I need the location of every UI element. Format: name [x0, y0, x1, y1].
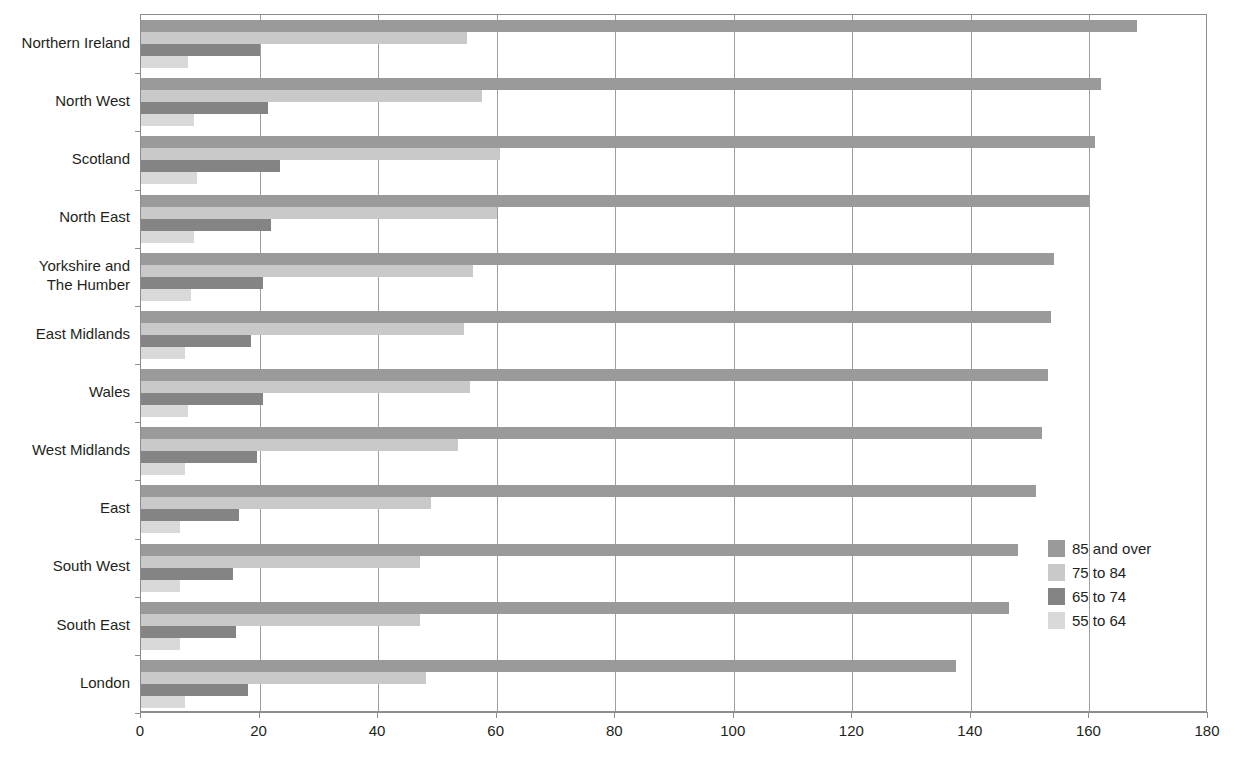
bar: [141, 56, 188, 68]
bar-row: [141, 369, 1206, 381]
bar: [141, 393, 263, 405]
chart-legend: 85 and over75 to 8465 to 7455 to 64: [1048, 538, 1151, 631]
bar-row: [141, 148, 1206, 160]
bar-row: [141, 672, 1206, 684]
bar-row: [141, 626, 1206, 638]
bar: [141, 195, 1089, 207]
bar: [141, 556, 420, 568]
bar-row: [141, 660, 1206, 672]
bar: [141, 381, 470, 393]
bar-row: [141, 311, 1206, 323]
category-label: North West: [0, 92, 130, 110]
bar-row: [141, 696, 1206, 708]
bar-row: [141, 556, 1206, 568]
x-axis-tick: [259, 712, 260, 718]
x-axis-tick-label: 180: [1194, 722, 1219, 739]
category-group: [141, 364, 1206, 422]
legend-swatch-icon: [1048, 540, 1065, 557]
bar: [141, 289, 191, 301]
category-group: [141, 422, 1206, 480]
bar-row: [141, 114, 1206, 126]
bar-row: [141, 381, 1206, 393]
bar: [141, 544, 1018, 556]
category-label: East Midlands: [0, 325, 130, 343]
bar-row: [141, 544, 1206, 556]
bar-row: [141, 497, 1206, 509]
bar: [141, 311, 1051, 323]
bar-row: [141, 521, 1206, 533]
category-group: [141, 306, 1206, 364]
category-group: [141, 655, 1206, 713]
bar: [141, 684, 248, 696]
bar-row: [141, 509, 1206, 521]
bar-row: [141, 277, 1206, 289]
bar-row: [141, 614, 1206, 626]
x-axis-tick: [1207, 712, 1208, 718]
bar: [141, 253, 1054, 265]
legend-label: 85 and over: [1072, 540, 1151, 557]
bar: [141, 497, 431, 509]
bar: [141, 265, 473, 277]
category-label: Yorkshire and The Humber: [0, 257, 130, 294]
legend-item: 65 to 74: [1048, 586, 1151, 607]
x-axis-tick: [614, 712, 615, 718]
bar: [141, 347, 185, 359]
bar-row: [141, 568, 1206, 580]
bar-chart: Northern IrelandNorth WestScotlandNorth …: [0, 0, 1239, 760]
x-axis-tick-label: 100: [720, 722, 745, 739]
bar: [141, 148, 500, 160]
bar-row: [141, 580, 1206, 592]
legend-swatch-icon: [1048, 564, 1065, 581]
bar-row: [141, 195, 1206, 207]
bar-row: [141, 231, 1206, 243]
bar: [141, 463, 185, 475]
bar-row: [141, 265, 1206, 277]
legend-item: 85 and over: [1048, 538, 1151, 559]
x-axis-tick: [377, 712, 378, 718]
bar-row: [141, 335, 1206, 347]
legend-label: 75 to 84: [1072, 564, 1126, 581]
category-label: South East: [0, 616, 130, 634]
category-label: Wales: [0, 383, 130, 401]
bar-row: [141, 463, 1206, 475]
bar-row: [141, 439, 1206, 451]
bar-row: [141, 160, 1206, 172]
bar: [141, 32, 467, 44]
bar-row: [141, 347, 1206, 359]
bar: [141, 20, 1137, 32]
x-axis-tick: [1088, 712, 1089, 718]
bar-row: [141, 78, 1206, 90]
category-label: South West: [0, 557, 130, 575]
bar-row: [141, 427, 1206, 439]
bar: [141, 114, 194, 126]
bar: [141, 439, 458, 451]
bar: [141, 277, 263, 289]
x-axis-tick-label: 40: [369, 722, 386, 739]
category-group: [141, 480, 1206, 538]
category-label: London: [0, 674, 130, 692]
bar: [141, 626, 236, 638]
bar-row: [141, 602, 1206, 614]
bar-row: [141, 684, 1206, 696]
bar-row: [141, 136, 1206, 148]
category-group: [141, 73, 1206, 131]
bar: [141, 451, 257, 463]
category-group: [141, 248, 1206, 306]
bar: [141, 405, 188, 417]
bar: [141, 160, 280, 172]
x-axis-tick: [496, 712, 497, 718]
bar: [141, 44, 260, 56]
category-group: [141, 597, 1206, 655]
bar-row: [141, 32, 1206, 44]
bar: [141, 207, 497, 219]
legend-swatch-icon: [1048, 588, 1065, 605]
bar-row: [141, 289, 1206, 301]
bar-row: [141, 44, 1206, 56]
bar-row: [141, 172, 1206, 184]
bar: [141, 172, 197, 184]
category-group: [141, 539, 1206, 597]
bar: [141, 696, 185, 708]
bar-row: [141, 405, 1206, 417]
legend-item: 55 to 64: [1048, 610, 1151, 631]
bar-row: [141, 451, 1206, 463]
